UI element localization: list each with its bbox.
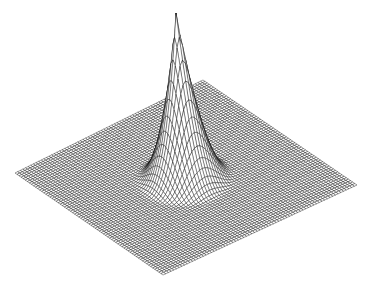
- wireframe-mesh: [0, 0, 366, 285]
- surface-plot: [0, 0, 366, 285]
- mesh-cells: [15, 13, 357, 275]
